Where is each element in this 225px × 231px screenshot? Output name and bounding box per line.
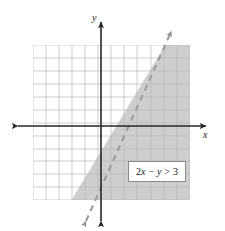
x-axis-label: x [203, 130, 207, 140]
inequality-constant: 3 [173, 166, 178, 177]
inequality-relation-sign: > [162, 166, 173, 177]
y-axis-label: y [92, 13, 96, 23]
inequality-minus-sign: − [146, 166, 157, 177]
coordinate-plane-figure: y x 2x − y > 3 [0, 0, 225, 231]
inequality-label-text: 2x − y > 3 [136, 166, 178, 177]
inequality-label-box: 2x − y > 3 [128, 161, 186, 182]
graph-canvas [0, 0, 225, 231]
